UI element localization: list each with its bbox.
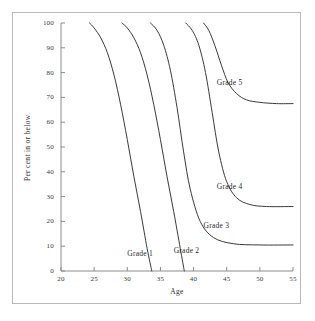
chart-page: 01020304050607080901002025303540455055 P… [0, 0, 315, 321]
x-tick-label: 20 [57, 275, 64, 283]
x-tick-label: 50 [256, 275, 263, 283]
series-curve-3 [150, 23, 293, 245]
y-tick-label: 80 [13, 69, 54, 77]
series-label-4: Grade 4 [217, 182, 243, 191]
series-label-5: Grade 5 [217, 78, 243, 87]
x-tick-label: 40 [190, 275, 197, 283]
y-tick-label: 0 [13, 267, 54, 275]
x-axis-label: Age [170, 287, 183, 296]
series-curve-2 [122, 23, 184, 271]
x-tick-label: 55 [289, 275, 296, 283]
y-tick-label: 10 [13, 242, 54, 250]
curves-group [90, 23, 294, 271]
y-tick-label: 60 [13, 118, 54, 126]
y-tick-label: 100 [13, 19, 54, 27]
y-tick-label: 40 [13, 168, 54, 176]
series-label-2: Grade 2 [174, 246, 200, 255]
axes-group [61, 23, 293, 271]
y-axis-label: Per cent in or below [23, 115, 32, 181]
y-tick-label: 70 [13, 93, 54, 101]
x-tick-label: 25 [90, 275, 97, 283]
x-tick-label: 30 [124, 275, 131, 283]
chart-plot-area [13, 13, 300, 303]
series-curve-1 [90, 23, 152, 271]
series-curve-5 [204, 23, 293, 104]
y-tick-label: 50 [13, 143, 54, 151]
y-tick-label: 20 [13, 217, 54, 225]
y-tick-label: 30 [13, 193, 54, 201]
series-label-3: Grade 3 [204, 221, 230, 230]
series-label-1: Grade 1 [127, 249, 153, 258]
chart-frame: 01020304050607080901002025303540455055 P… [12, 12, 301, 304]
x-tick-label: 45 [223, 275, 230, 283]
series-curve-4 [186, 23, 293, 207]
y-tick-label: 90 [13, 44, 54, 52]
x-tick-label: 35 [157, 275, 164, 283]
